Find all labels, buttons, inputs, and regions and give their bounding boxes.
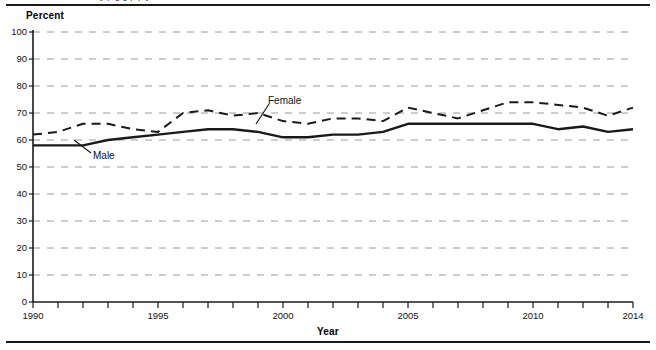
y-tick-label-0: 0 (0, 296, 27, 307)
series-label-female: Female (268, 95, 301, 106)
series-line-female (33, 102, 633, 134)
y-tick-label-100: 100 (0, 26, 27, 37)
y-tick-label-80: 80 (0, 80, 27, 91)
y-tick-label-40: 40 (0, 188, 27, 199)
x-tick-label-2014: 2014 (613, 310, 653, 321)
y-tick-label-10: 10 (0, 269, 27, 280)
x-axis-title: Year (0, 326, 656, 337)
y-tick-label-30: 30 (0, 215, 27, 226)
x-tick-label-2000: 2000 (263, 310, 303, 321)
x-tick-label-1995: 1995 (138, 310, 178, 321)
plot-area (0, 0, 656, 350)
y-tick-label-60: 60 (0, 134, 27, 145)
x-tick-label-1990: 1990 (13, 310, 53, 321)
y-tick-label-20: 20 (0, 242, 27, 253)
y-tick-label-70: 70 (0, 107, 27, 118)
bottom-divider-rule (6, 341, 650, 343)
x-tick-label-2005: 2005 (388, 310, 428, 321)
y-tick-label-50: 50 (0, 161, 27, 172)
series-label-male: Male (93, 150, 115, 161)
y-tick-label-90: 90 (0, 53, 27, 64)
x-tick-label-2010: 2010 (513, 310, 553, 321)
leader-line-female (256, 104, 269, 124)
chart-figure: y p g g p p y Percent 010203040506070809… (0, 0, 656, 350)
